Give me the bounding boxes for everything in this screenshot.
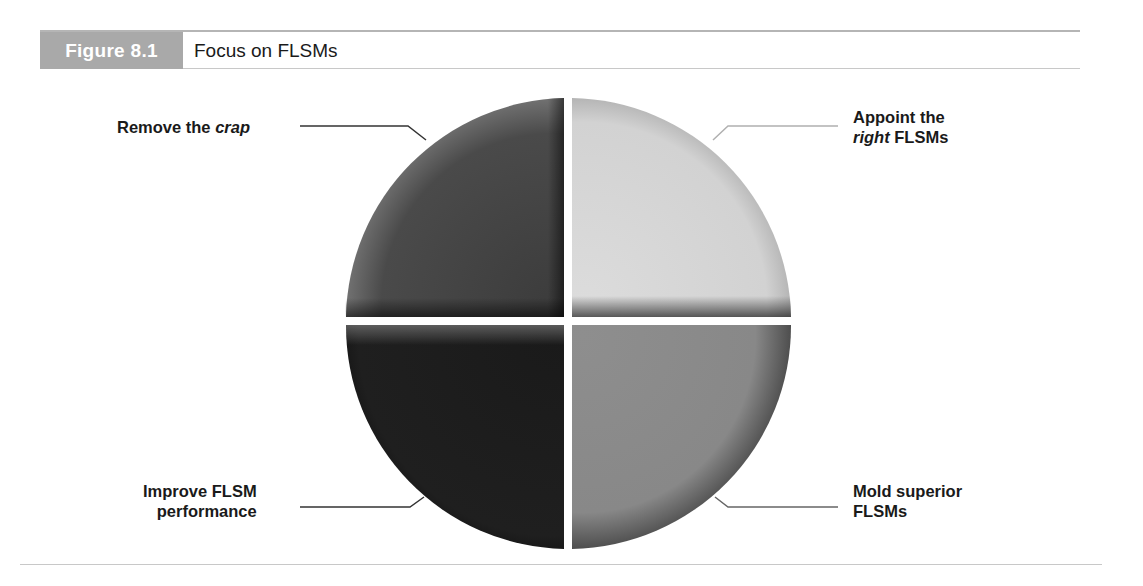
- bottom-rule: [20, 564, 1102, 565]
- label-line1: Mold superior: [853, 481, 962, 501]
- quadrant-bottom-right: [572, 325, 791, 549]
- label-appoint-the-right-flsms: Appoint theright FLSMs: [853, 107, 948, 147]
- quadrant-top-left: [346, 98, 564, 317]
- quadrant-bottom-left: [346, 325, 564, 549]
- label-mold-superior-flsms: Mold superiorFLSMs: [853, 481, 962, 521]
- label-line2: FLSMs: [853, 501, 962, 521]
- label-line1: Appoint the: [853, 107, 948, 127]
- label-text: Remove the: [117, 118, 215, 136]
- leader-line-top-left: [300, 126, 426, 140]
- label-line2: performance: [143, 501, 257, 521]
- leader-line-bottom-left: [300, 497, 424, 507]
- label-improve-flsm-performance: Improve FLSMperformance: [143, 481, 257, 521]
- label-line1: Improve FLSM: [143, 481, 257, 501]
- leader-line-top-right: [713, 126, 838, 140]
- label-italic-text: right: [853, 128, 890, 146]
- leader-line-bottom-right: [715, 497, 838, 507]
- label-italic-text: crap: [215, 118, 250, 136]
- label-remove-the-crap: Remove the crap: [117, 117, 250, 137]
- quadrant-top-right: [572, 98, 791, 317]
- label-text: FLSMs: [890, 128, 949, 146]
